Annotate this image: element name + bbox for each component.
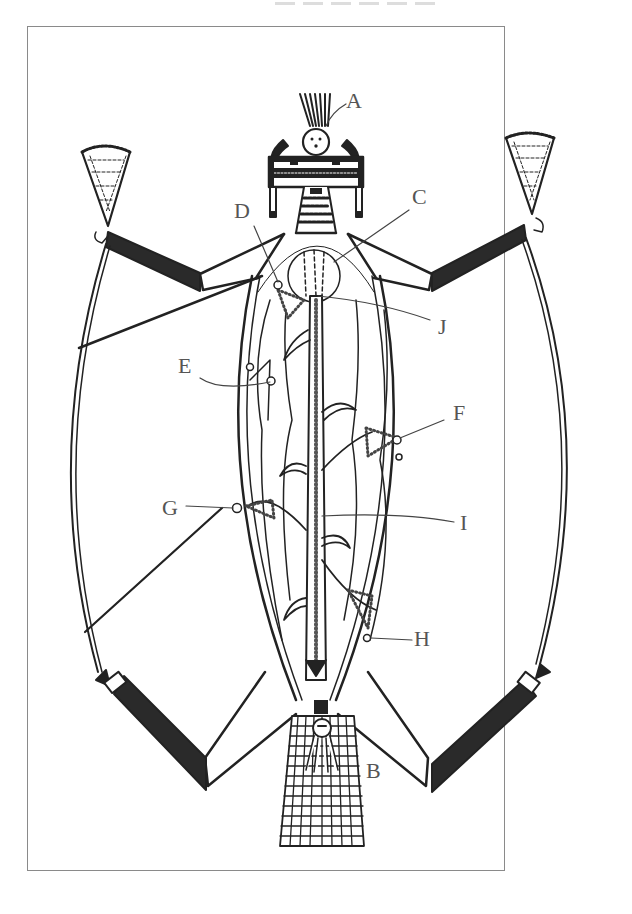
label-j: J: [438, 316, 447, 338]
right-forearm: [432, 225, 526, 291]
left-lower-connector: [85, 508, 222, 632]
pollen-d: [278, 290, 304, 318]
label-i: I: [460, 512, 467, 534]
label-f: F: [453, 402, 465, 424]
neck: [296, 187, 336, 233]
figure-drawing: [0, 0, 632, 914]
label-g: G: [162, 497, 178, 519]
headdress-feathers: [300, 94, 330, 126]
label-b: B: [366, 760, 381, 782]
label-a: A: [346, 90, 362, 112]
corn-stalk: [306, 296, 328, 714]
right-lower-leg: [432, 680, 536, 792]
pollen-h: [348, 590, 372, 628]
left-rattle: [82, 146, 130, 243]
right-rattle: [506, 133, 554, 232]
label-h: H: [414, 628, 430, 650]
head-circle: [303, 129, 329, 155]
label-c: C: [412, 186, 427, 208]
label-e: E: [178, 355, 191, 377]
left-forearm: [106, 232, 200, 291]
right-staff-arc: [526, 238, 567, 664]
label-d: D: [234, 200, 250, 222]
left-lower-leg: [114, 676, 206, 790]
left-upper-connector: [79, 276, 262, 348]
